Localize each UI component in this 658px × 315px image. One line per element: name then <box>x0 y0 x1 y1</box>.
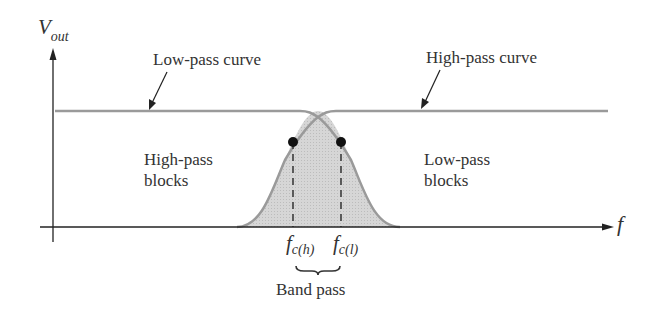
low-pass-curve-label: Low-pass curve <box>153 50 261 69</box>
high-pass-callout-arrow-icon <box>421 98 429 109</box>
high-pass-curve-label: High-pass curve <box>426 48 537 67</box>
high-pass-blocks-label: High-pass blocks <box>144 149 213 191</box>
fch-point <box>288 137 298 147</box>
fcl-label: fc(l) <box>333 234 358 255</box>
band-pass-brace <box>296 266 340 275</box>
low-pass-blocks-label: Low-pass blocks <box>424 149 490 191</box>
x-axis-arrow-icon <box>602 224 614 231</box>
y-axis-label: Vout <box>38 18 69 44</box>
band-pass-diagram <box>0 0 658 315</box>
fcl-point <box>336 137 346 147</box>
low-pass-callout-line <box>152 72 167 103</box>
band-pass-label: Band pass <box>276 280 345 299</box>
high-pass-callout-line <box>425 70 440 102</box>
fch-label: fc(h) <box>286 234 314 255</box>
y-axis-arrow-icon <box>50 48 57 60</box>
x-axis-label: f <box>617 214 623 233</box>
